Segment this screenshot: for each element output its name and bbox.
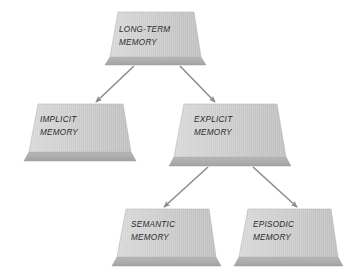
node-long-term-memory[interactable]	[105, 12, 206, 65]
slab-face-texture-episodic-memory	[239, 209, 338, 257]
diagram-canvas	[0, 0, 350, 275]
edge-longterm-implicit	[96, 66, 134, 102]
node-implicit-memory[interactable]	[24, 104, 136, 161]
edge-explicit-semantic	[164, 167, 208, 207]
slab-side-semantic-memory	[112, 257, 221, 266]
slab-side-episodic-memory	[234, 257, 343, 266]
slab-side-long-term-memory	[105, 57, 206, 65]
slab-side-explicit-memory	[169, 157, 291, 166]
slab-face-texture-semantic-memory	[117, 209, 216, 257]
node-episodic-memory[interactable]	[234, 209, 343, 266]
slab-face-texture-implicit-memory	[29, 104, 131, 152]
memory-hierarchy-diagram: LONG-TERM MEMORY IMPLICIT MEMORY EXPLICI…	[0, 0, 350, 275]
slab-face-texture-explicit-memory	[174, 104, 286, 157]
edge-explicit-episodic	[253, 167, 297, 207]
edge-longterm-explicit	[180, 66, 215, 102]
slab-side-implicit-memory	[24, 152, 136, 161]
slab-face-texture-long-term-memory	[110, 12, 201, 57]
node-explicit-memory[interactable]	[169, 104, 291, 166]
node-semantic-memory[interactable]	[112, 209, 221, 266]
